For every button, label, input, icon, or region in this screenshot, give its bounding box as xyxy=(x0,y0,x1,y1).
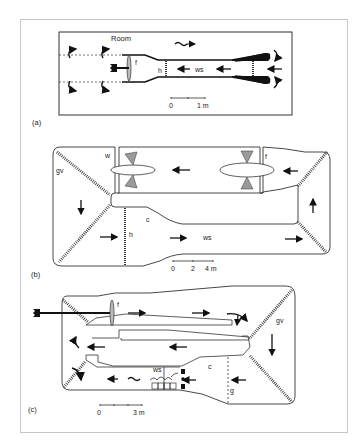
fan-nacelle-right xyxy=(220,163,274,177)
working-section-label-b: ws xyxy=(202,234,212,241)
recirculation-arrow xyxy=(75,337,79,348)
guide-vanes-c-tl xyxy=(63,300,88,322)
turbulent-flow-arrow xyxy=(128,378,140,381)
room-outline xyxy=(59,32,292,115)
motor-icon xyxy=(110,64,117,72)
panel-b: gv w f h c ws 0 2 4 m (b) xyxy=(31,147,330,279)
guide-vanes-label-b: gv xyxy=(56,167,64,175)
bellmouth-bottom xyxy=(232,76,270,84)
guide-vanes-c-tr xyxy=(250,290,292,338)
inner-duct-upper-c xyxy=(92,330,250,340)
working-section-label-a: ws xyxy=(194,66,204,73)
scale-bar-a xyxy=(171,97,205,99)
panel-c: gv f xyxy=(28,286,295,416)
screen-block xyxy=(181,384,185,389)
scale-bar-b-start: 0 xyxy=(171,265,175,272)
recirculation-arrow xyxy=(102,81,109,91)
panel-label-a: (a) xyxy=(32,118,42,127)
flow-arrow xyxy=(237,315,238,325)
scale-bar-b xyxy=(173,260,213,262)
contraction-label-c: c xyxy=(208,363,212,370)
guide-vanes-c-br xyxy=(250,356,292,402)
screen-block xyxy=(181,369,185,374)
recirculation-arrow xyxy=(274,50,277,61)
scale-bar-b-end: 4 m xyxy=(205,265,217,272)
recirculation-arrow xyxy=(102,49,109,58)
scale-bar-a-start: 0 xyxy=(169,102,173,109)
guide-vanes-b-tr xyxy=(298,152,327,186)
turbulent-flow-arrow xyxy=(175,43,195,46)
wind-tunnel-diagram: Room f h ws 0 1 m (a) xyxy=(0,0,362,443)
honeycomb-label-b: h xyxy=(129,231,133,238)
grid-label-c: g xyxy=(230,387,234,395)
honeycomb-label-a: h xyxy=(158,67,162,74)
panel-a: Room f h ws 0 1 m (a) xyxy=(32,32,292,127)
guide-vanes-b-tl xyxy=(57,152,110,195)
recirculation-arrow xyxy=(274,77,277,88)
recirculation-arrow xyxy=(69,81,76,91)
fan-label-b: f xyxy=(265,153,267,160)
scale-bar-c-end: 3 m xyxy=(133,409,145,416)
panel-label-b: (b) xyxy=(31,270,41,279)
fan-blade-icon xyxy=(241,177,253,189)
scale-bar-b-mid: 2 xyxy=(191,265,195,272)
screen-block xyxy=(181,377,185,381)
fan-label-c: f xyxy=(117,301,119,308)
panel-label-c: (c) xyxy=(28,405,37,414)
inner-duct-lower-edge xyxy=(86,314,232,325)
inner-duct-wall-c xyxy=(86,355,180,367)
fan-nacelle-left xyxy=(111,165,155,175)
room-label: Room xyxy=(111,34,131,43)
contraction-label-b: c xyxy=(146,216,150,223)
wall-label-b: w xyxy=(104,152,111,159)
fan-blade-icon xyxy=(125,152,137,165)
guide-vanes-b-br xyxy=(298,222,326,252)
motor-icon xyxy=(33,309,40,317)
tunnel-outline-c xyxy=(62,286,295,404)
inner-duct-b xyxy=(111,185,298,224)
scale-bar-c-start: 0 xyxy=(97,409,101,416)
scale-bar-c xyxy=(100,404,142,406)
fan-blade-icon xyxy=(125,175,137,188)
fan-label-a: f xyxy=(135,59,137,66)
guide-vanes-c-bl xyxy=(64,362,85,387)
fan-blade-icon xyxy=(241,151,253,163)
inner-duct-contraction-c xyxy=(86,336,250,366)
scale-bar-a-end: 1 m xyxy=(197,102,209,109)
tunnel-outline-b xyxy=(53,147,330,266)
fan-icon xyxy=(110,300,114,326)
working-section-label-c: ws xyxy=(152,366,162,373)
guide-vanes-b-bl xyxy=(59,205,110,262)
recirculation-arrow xyxy=(69,49,76,58)
bellmouth-top xyxy=(232,53,270,61)
guide-vanes-label-c: gv xyxy=(276,317,284,325)
